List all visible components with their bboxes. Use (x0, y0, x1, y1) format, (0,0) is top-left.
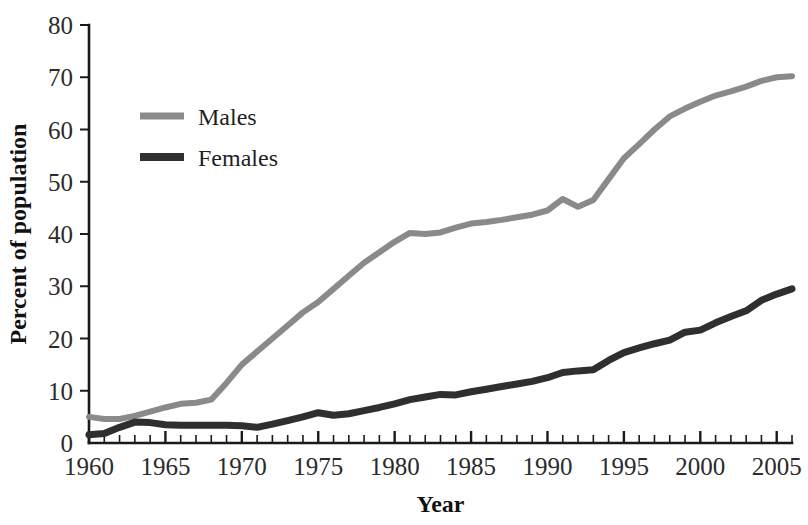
y-axis-title: Percent of population (5, 124, 31, 345)
x-axis-tick-label: 2005 (752, 453, 802, 480)
line-chart: 01020304050607080 1960196519701975198019… (0, 0, 808, 525)
x-axis-tick-label: 1960 (64, 453, 114, 480)
x-axis-tick-label: 1985 (446, 453, 496, 480)
chart-figure: 01020304050607080 1960196519701975198019… (0, 0, 808, 525)
x-axis-title: Year (417, 491, 465, 517)
x-axis-tick-label: 1975 (293, 453, 343, 480)
x-axis-tick-label: 1995 (599, 453, 649, 480)
y-axis-tick-label: 10 (48, 378, 73, 405)
legend-label-males: Males (198, 104, 257, 130)
y-axis-tick-label: 20 (48, 326, 73, 353)
x-axis-tick-label: 1970 (217, 453, 267, 480)
x-axis-tick-label: 1980 (370, 453, 420, 480)
x-axis-tick-label: 1990 (522, 453, 572, 480)
legend-label-females: Females (198, 145, 278, 171)
x-axis-tick-label: 1965 (140, 453, 190, 480)
y-axis-tick-label: 50 (48, 169, 73, 196)
y-axis-tick-label: 60 (48, 117, 73, 144)
y-axis-tick-label: 40 (48, 221, 73, 248)
y-axis-tick-label: 30 (48, 273, 73, 300)
x-axis-tick-label: 2000 (675, 453, 725, 480)
y-axis-tick-label: 70 (48, 64, 73, 91)
chart-background (0, 0, 808, 525)
y-axis-tick-label: 80 (48, 12, 73, 39)
